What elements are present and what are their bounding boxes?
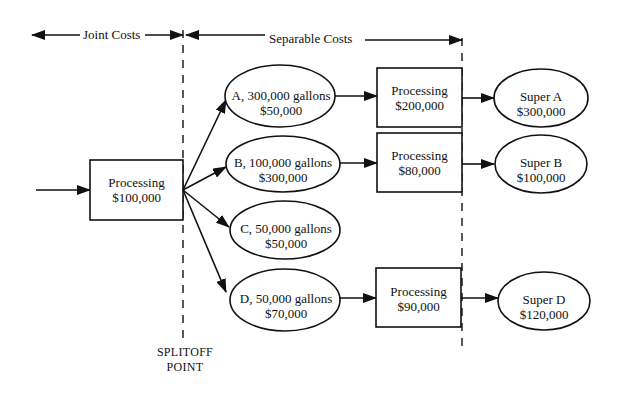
- super-d-label: Super D: [498, 292, 590, 307]
- processing-a-text: Processing $200,000: [377, 83, 462, 113]
- product-d-text: D, 50,000 gallons $70,000: [230, 291, 342, 321]
- super-b-text: Super B $100,000: [495, 155, 587, 185]
- separable-costs-label: Separable Costs: [268, 32, 353, 46]
- super-a-value: $300,000: [494, 104, 588, 119]
- super-b-label: Super B: [495, 155, 587, 170]
- joint-processing-text: Processing $100,000: [90, 175, 183, 205]
- processing-a-cost: $200,000: [377, 98, 462, 113]
- product-a-value: $50,000: [225, 103, 337, 118]
- super-b-value: $100,000: [495, 170, 587, 185]
- super-d-text: Super D $120,000: [498, 292, 590, 322]
- product-c-value: $50,000: [230, 236, 342, 251]
- product-d-value: $70,000: [230, 306, 342, 321]
- arrow-to-product-c: [183, 190, 229, 227]
- product-d-label: D, 50,000 gallons: [230, 291, 342, 306]
- processing-b-label: Processing: [377, 148, 462, 163]
- product-c-label: C, 50,000 gallons: [230, 221, 342, 236]
- splitoff-line2: POINT: [140, 360, 230, 375]
- processing-b-cost: $80,000: [377, 163, 462, 178]
- joint-processing-cost: $100,000: [90, 190, 183, 205]
- processing-b-text: Processing $80,000: [377, 148, 462, 178]
- product-a-text: A, 300,000 gallons $50,000: [225, 88, 337, 118]
- product-b-value: $300,000: [226, 170, 340, 185]
- product-c-text: C, 50,000 gallons $50,000: [230, 221, 342, 251]
- splitoff-point-label: SPLITOFF POINT: [140, 345, 230, 375]
- super-a-text: Super A $300,000: [494, 89, 588, 119]
- arrow-to-product-a: [183, 100, 226, 190]
- product-b-text: B, 100,000 gallons $300,000: [226, 155, 340, 185]
- processing-a-label: Processing: [377, 83, 462, 98]
- super-d-value: $120,000: [498, 307, 590, 322]
- processing-d-label: Processing: [376, 284, 461, 299]
- super-a-label: Super A: [494, 89, 588, 104]
- joint-costs-label: Joint Costs: [82, 28, 141, 42]
- splitoff-line1: SPLITOFF: [140, 345, 230, 360]
- joint-cost-diagram: Joint Costs Separable Costs Processing $…: [0, 0, 629, 395]
- arrow-to-product-b: [183, 167, 226, 190]
- processing-d-cost: $90,000: [376, 299, 461, 314]
- processing-d-text: Processing $90,000: [376, 284, 461, 314]
- arrow-to-product-d: [183, 190, 226, 292]
- product-b-label: B, 100,000 gallons: [226, 155, 340, 170]
- product-a-label: A, 300,000 gallons: [225, 88, 337, 103]
- joint-processing-label: Processing: [90, 175, 183, 190]
